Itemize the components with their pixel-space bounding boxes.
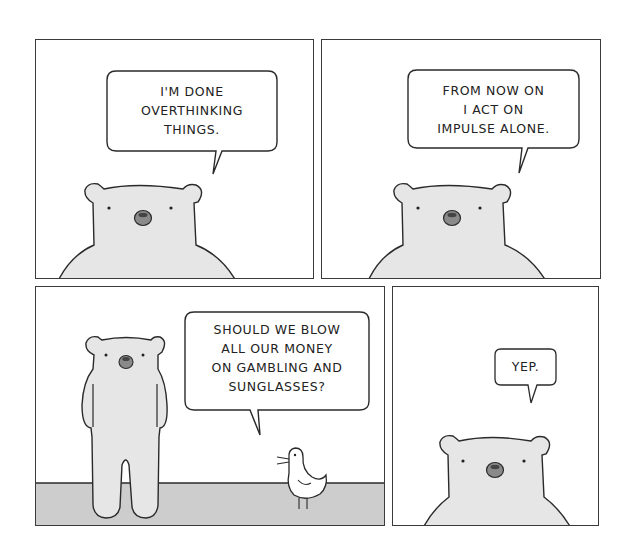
ground <box>36 483 385 526</box>
panel-4-art <box>393 287 599 526</box>
bear-head-icon <box>58 184 236 279</box>
speech-text: FROM NOW ON I ACT ON IMPULSE ALONE. <box>408 81 579 138</box>
bear-head-icon <box>368 184 546 279</box>
panel-1: I'M DONE OVERTHINKING THINGS. <box>35 39 314 279</box>
speech-text: YEP. <box>495 357 556 376</box>
speech-text: SHOULD WE BLOW ALL OUR MONEY ON GAMBLING… <box>185 320 369 396</box>
panel-3: SHOULD WE BLOW ALL OUR MONEY ON GAMBLING… <box>35 286 385 526</box>
bear-head-icon <box>423 436 571 526</box>
panel-1-art <box>36 40 314 279</box>
speech-text: I'M DONE OVERTHINKING THINGS. <box>107 82 277 139</box>
panel-2: FROM NOW ON I ACT ON IMPULSE ALONE. <box>321 39 601 279</box>
comic-strip: I'M DONE OVERTHINKING THINGS. FROM NOW O… <box>0 0 631 553</box>
panel-4: YEP. <box>392 286 599 526</box>
panel-2-art <box>322 40 601 279</box>
